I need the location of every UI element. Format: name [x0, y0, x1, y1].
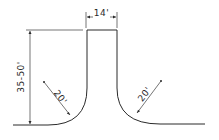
outline-right [117, 30, 205, 124]
arrow-icon [87, 16, 90, 19]
radius-left-label: 20' [52, 88, 69, 106]
arrow-icon [29, 31, 32, 34]
arrow-icon [113, 16, 116, 19]
arrow-icon [137, 110, 140, 113]
length-dimension: 35-50' [16, 30, 83, 124]
radius-right-label: 20' [136, 85, 153, 103]
width-dimension: 14' [86, 8, 117, 28]
radius-left-dimension: 20' [43, 81, 70, 115]
arrow-icon [29, 121, 32, 124]
arrow-icon [67, 112, 70, 115]
radius-right-dimension: 20' [136, 80, 162, 113]
driveway-diagram: 14' 35-50' 20' 20' [0, 0, 219, 140]
diagram-canvas: 14' 35-50' 20' 20' [0, 0, 219, 140]
length-label: 35-50' [16, 61, 26, 93]
width-label: 14' [94, 8, 109, 18]
